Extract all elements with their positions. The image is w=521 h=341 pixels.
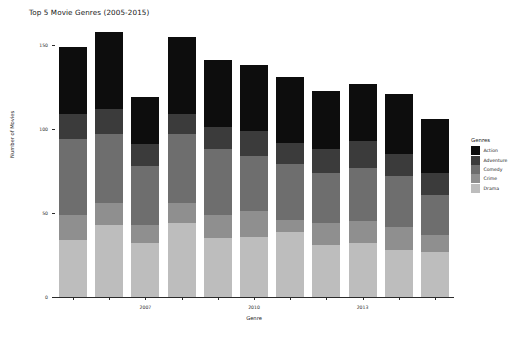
- bar-segment-comedy[interactable]: [421, 195, 449, 235]
- bar-segment-adventure[interactable]: [131, 144, 159, 166]
- legend-label: Comedy: [484, 167, 503, 172]
- bar-segment-drama[interactable]: [131, 243, 159, 297]
- bar-segment-adventure[interactable]: [276, 143, 304, 165]
- bar-2015[interactable]: [421, 119, 449, 297]
- legend-label: Adventure: [484, 158, 508, 163]
- y-tick-label: 100: [39, 127, 48, 132]
- bar-segment-comedy[interactable]: [349, 168, 377, 222]
- legend-swatch-action: [471, 146, 480, 155]
- bar-segment-comedy[interactable]: [131, 166, 159, 225]
- legend-label: Action: [484, 148, 498, 153]
- bar-segment-action[interactable]: [385, 94, 413, 154]
- bar-segment-comedy[interactable]: [312, 173, 340, 223]
- bar-segment-action[interactable]: [95, 32, 123, 109]
- x-tick-mark: [109, 297, 110, 300]
- bar-segment-action[interactable]: [276, 77, 304, 142]
- bar-segment-adventure[interactable]: [349, 141, 377, 168]
- bar-2008[interactable]: [168, 37, 196, 297]
- x-tick-mark: [218, 297, 219, 300]
- x-axis-title: Genre: [246, 315, 262, 321]
- x-tick-mark: [290, 297, 291, 300]
- bar-segment-adventure[interactable]: [168, 114, 196, 134]
- y-tick-label: 50: [42, 211, 48, 216]
- legend-swatch-comedy: [471, 165, 480, 174]
- bar-2005[interactable]: [59, 47, 87, 297]
- bar-segment-crime[interactable]: [276, 220, 304, 232]
- legend-label: Crime: [484, 176, 498, 181]
- x-tick-label: 2010: [248, 305, 260, 310]
- bar-segment-crime[interactable]: [312, 223, 340, 245]
- x-tick-mark: [73, 297, 74, 300]
- bar-segment-drama[interactable]: [385, 250, 413, 297]
- bar-segment-crime[interactable]: [385, 227, 413, 251]
- bar-segment-drama[interactable]: [276, 232, 304, 297]
- x-tick-label: 2007: [140, 305, 152, 310]
- legend-item-comedy[interactable]: Comedy: [471, 165, 519, 174]
- bar-2014[interactable]: [385, 94, 413, 297]
- x-tick-mark: [326, 297, 327, 300]
- legend-item-crime[interactable]: Crime: [471, 174, 519, 183]
- x-tick-mark: [145, 297, 146, 300]
- legend-items: ActionAdventureComedyCrimeDrama: [471, 146, 519, 193]
- bar-segment-adventure[interactable]: [240, 131, 268, 156]
- bar-segment-adventure[interactable]: [385, 154, 413, 176]
- bar-segment-crime[interactable]: [168, 203, 196, 223]
- bar-segment-drama[interactable]: [349, 243, 377, 297]
- chart-title: Top 5 Movie Genres (2005-2015): [29, 8, 149, 17]
- bar-segment-adventure[interactable]: [421, 173, 449, 195]
- bar-segment-action[interactable]: [312, 91, 340, 150]
- bar-segment-adventure[interactable]: [312, 149, 340, 173]
- bar-segment-drama[interactable]: [168, 223, 196, 297]
- bar-segment-crime[interactable]: [240, 211, 268, 236]
- bar-segment-action[interactable]: [349, 84, 377, 141]
- bar-segment-comedy[interactable]: [168, 134, 196, 203]
- bar-segment-crime[interactable]: [421, 235, 449, 252]
- bar-2011[interactable]: [276, 77, 304, 297]
- legend-item-adventure[interactable]: Adventure: [471, 155, 519, 164]
- bar-2006[interactable]: [95, 32, 123, 297]
- bar-segment-crime[interactable]: [95, 203, 123, 225]
- bar-segment-adventure[interactable]: [204, 127, 232, 149]
- y-tick-mark: [52, 297, 55, 298]
- chart-figure: Top 5 Movie Genres (2005-2015) Number of…: [0, 0, 521, 341]
- bar-segment-adventure[interactable]: [95, 109, 123, 134]
- bar-segment-comedy[interactable]: [385, 176, 413, 226]
- legend-item-action[interactable]: Action: [471, 146, 519, 155]
- bar-segment-comedy[interactable]: [276, 164, 304, 219]
- bar-2010[interactable]: [240, 65, 268, 297]
- bar-segment-comedy[interactable]: [204, 149, 232, 214]
- bar-segment-action[interactable]: [131, 97, 159, 144]
- bar-segment-drama[interactable]: [204, 238, 232, 297]
- y-axis-title: Number of Movies: [9, 111, 15, 158]
- legend-swatch-drama: [471, 184, 480, 193]
- x-tick-mark: [182, 297, 183, 300]
- x-tick-mark: [435, 297, 436, 300]
- bar-segment-drama[interactable]: [59, 240, 87, 297]
- bar-segment-drama[interactable]: [95, 225, 123, 297]
- bar-2012[interactable]: [312, 91, 340, 297]
- bar-segment-comedy[interactable]: [240, 156, 268, 211]
- bar-segment-comedy[interactable]: [59, 139, 87, 215]
- bar-segment-drama[interactable]: [240, 237, 268, 297]
- bar-segment-action[interactable]: [421, 119, 449, 173]
- bar-segment-crime[interactable]: [131, 225, 159, 243]
- bar-2007[interactable]: [131, 97, 159, 297]
- bar-segment-drama[interactable]: [312, 245, 340, 297]
- bar-segment-comedy[interactable]: [95, 134, 123, 203]
- legend-item-drama[interactable]: Drama: [471, 184, 519, 193]
- bar-segment-action[interactable]: [204, 60, 232, 127]
- x-tick-mark: [363, 297, 364, 300]
- bar-2009[interactable]: [204, 60, 232, 297]
- x-tick-mark: [399, 297, 400, 300]
- bar-segment-action[interactable]: [168, 37, 196, 114]
- bar-segment-crime[interactable]: [349, 221, 377, 243]
- y-tick-label: 150: [39, 43, 48, 48]
- bar-segment-action[interactable]: [240, 65, 268, 130]
- bar-segment-crime[interactable]: [59, 215, 87, 240]
- bar-segment-drama[interactable]: [421, 252, 449, 297]
- bar-segment-crime[interactable]: [204, 215, 232, 239]
- chart-legend: Genres ActionAdventureComedyCrimeDrama: [471, 137, 519, 193]
- bar-segment-adventure[interactable]: [59, 114, 87, 139]
- bar-2013[interactable]: [349, 84, 377, 297]
- bar-segment-action[interactable]: [59, 47, 87, 114]
